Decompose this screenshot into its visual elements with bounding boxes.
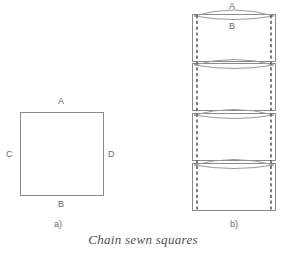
- diagram-b-stack-group: [193, 10, 276, 211]
- panel-rect: [193, 164, 276, 211]
- stack-panel-label-b: B: [229, 21, 235, 31]
- figure-vector-layer: [0, 0, 286, 256]
- square-outline: [21, 113, 104, 196]
- stack-panel-4: [193, 160, 276, 211]
- square-edge-label-bottom: B: [58, 199, 64, 209]
- stack-panel-3: [193, 110, 276, 161]
- figure-chain-sewn-squares: A B C D A B a) b) Chain sewn squares: [0, 0, 286, 256]
- diagram-a-square-group: [21, 113, 104, 196]
- seam-lens-lower-arc: [194, 16, 274, 20]
- panel-label-a: a): [54, 219, 62, 229]
- seam-lens-lower-arc: [194, 115, 274, 119]
- panel-rect: [193, 114, 276, 161]
- stack-seam-label-a: A: [229, 1, 235, 11]
- square-edge-label-top: A: [58, 96, 64, 106]
- stack-panel-1: [193, 10, 276, 62]
- seam-lens-lower-arc: [194, 65, 274, 69]
- seam-lens-lower-arc: [194, 165, 274, 169]
- square-edge-label-left: C: [6, 149, 13, 159]
- stack-panel-2: [193, 60, 276, 111]
- panel-rect: [193, 64, 276, 111]
- seam-lens-upper-arc: [194, 60, 274, 66]
- panel-label-b: b): [230, 219, 238, 229]
- figure-caption: Chain sewn squares: [0, 232, 286, 248]
- square-edge-label-right: D: [108, 149, 115, 159]
